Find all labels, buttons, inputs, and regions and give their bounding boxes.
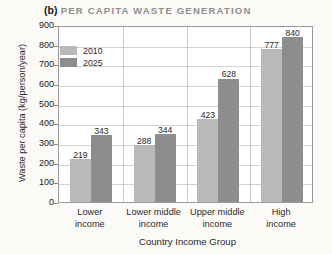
chart-title: (b)PER CAPITA WASTE GENERATION bbox=[44, 3, 252, 17]
chart-figure: (b)PER CAPITA WASTE GENERATION Waste per… bbox=[0, 0, 332, 254]
bar-value-label-2025-lower-income: 343 bbox=[84, 126, 119, 136]
x-category-lower-income: Lowerincome bbox=[58, 207, 122, 230]
x-axis-title: Country Income Group bbox=[60, 236, 315, 247]
x-category-lower-middle-income: Lower middleincome bbox=[122, 207, 186, 230]
category-separator-2 bbox=[187, 27, 188, 202]
bar-2025-lower-middle-income bbox=[155, 134, 176, 202]
x-category-line: income bbox=[122, 219, 186, 231]
y-tick-label-800: 800 bbox=[14, 40, 54, 50]
bar-2025-upper-middle-income bbox=[218, 79, 239, 203]
category-separator-1 bbox=[123, 27, 124, 202]
bar-value-label-2025-lower-middle-income: 344 bbox=[148, 125, 183, 135]
legend: 20102025 bbox=[60, 45, 122, 69]
legend-label-2010: 2010 bbox=[83, 46, 103, 56]
x-category-line: income bbox=[249, 219, 313, 231]
x-category-high-income: Highincome bbox=[249, 207, 313, 230]
bar-2010-high-income bbox=[261, 49, 282, 202]
y-tick-mark-0 bbox=[53, 203, 58, 204]
legend-item-2025: 2025 bbox=[60, 57, 122, 68]
legend-swatch-2010 bbox=[60, 46, 77, 55]
bar-value-label-2025-upper-middle-income: 628 bbox=[211, 69, 246, 79]
x-category-line: income bbox=[186, 219, 250, 231]
bar-2025-high-income bbox=[282, 37, 303, 202]
x-category-line: Upper middle bbox=[186, 207, 250, 219]
bar-2025-lower-income bbox=[91, 135, 112, 202]
y-tick-label-400: 400 bbox=[14, 118, 54, 128]
y-tick-label-300: 300 bbox=[14, 138, 54, 148]
bar-2010-lower-middle-income bbox=[134, 145, 155, 202]
x-category-line: High bbox=[249, 207, 313, 219]
legend-swatch-2025 bbox=[60, 58, 77, 67]
bar-2010-upper-middle-income bbox=[197, 119, 218, 202]
x-category-line: Lower bbox=[58, 207, 122, 219]
y-tick-label-500: 500 bbox=[14, 99, 54, 109]
category-separator-3 bbox=[250, 27, 251, 202]
bar-2010-lower-income bbox=[70, 159, 91, 202]
bar-value-label-2025-high-income: 840 bbox=[275, 28, 310, 38]
y-tick-label-200: 200 bbox=[14, 158, 54, 168]
legend-label-2025: 2025 bbox=[83, 58, 103, 68]
y-axis-title: Waste per capita (kg/person/year) bbox=[17, 27, 27, 199]
chart-title-text: PER CAPITA WASTE GENERATION bbox=[61, 5, 252, 16]
x-category-line: income bbox=[58, 219, 122, 231]
y-tick-label-600: 600 bbox=[14, 79, 54, 89]
y-tick-label-700: 700 bbox=[14, 59, 54, 69]
y-tick-label-900: 900 bbox=[14, 20, 54, 30]
y-tick-label-100: 100 bbox=[14, 177, 54, 187]
chart-title-tag: (b) bbox=[44, 4, 58, 16]
legend-item-2010: 2010 bbox=[60, 45, 122, 56]
x-category-upper-middle-income: Upper middleincome bbox=[186, 207, 250, 230]
y-tick-label-0: 0 bbox=[14, 197, 54, 207]
x-category-line: Lower middle bbox=[122, 207, 186, 219]
